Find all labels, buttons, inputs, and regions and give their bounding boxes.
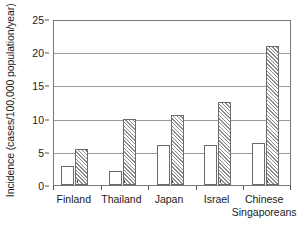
plot-area xyxy=(53,20,291,186)
bar-chart: Incidence (cases/100,000 population/year… xyxy=(0,0,297,241)
y-axis-tick-mark xyxy=(45,53,49,54)
y-axis-tick-label: 15 xyxy=(32,81,44,92)
x-axis-tick-label: Thailand xyxy=(101,193,141,206)
y-axis-tick-mark xyxy=(45,20,49,21)
x-axis-tick-marks xyxy=(53,186,291,191)
x-axis-tick-label-line: Israel xyxy=(204,193,230,205)
y-axis-tick-label: 25 xyxy=(32,15,44,26)
bar xyxy=(157,145,170,185)
y-axis-tick-label: 5 xyxy=(38,148,44,159)
x-axis-tick-label: Israel xyxy=(204,193,230,206)
y-axis-tick-label: 0 xyxy=(38,181,44,192)
x-axis-tick-labels: FinlandThailandJapanIsraelChineseSingapo… xyxy=(53,193,291,239)
bar xyxy=(204,145,217,186)
y-axis-title: Incidence (cases/100,000 population/year… xyxy=(0,0,20,200)
x-axis-tick-mark xyxy=(196,186,197,190)
x-axis-tick-mark xyxy=(290,186,291,190)
y-axis-tick-mark xyxy=(45,86,49,87)
x-axis-minor-tick-mark xyxy=(77,180,78,183)
y-axis-title-text: Incidence (cases/100,000 population/year… xyxy=(5,3,16,197)
x-axis-tick-label-line: Singaporeans xyxy=(232,206,297,219)
y-axis-tick-labels: 0510152025 xyxy=(20,20,49,186)
bar xyxy=(123,119,136,185)
x-axis-tick-mark xyxy=(243,186,244,190)
bars-layer xyxy=(54,21,290,185)
bar xyxy=(61,166,74,185)
x-axis-tick-label: Finland xyxy=(57,193,91,206)
bar xyxy=(218,102,231,185)
bar xyxy=(266,46,279,185)
x-axis-tick-label-line: Chinese xyxy=(245,193,284,205)
x-axis-tick-label: ChineseSingaporeans xyxy=(232,193,297,219)
x-axis-minor-tick-mark xyxy=(172,180,173,183)
x-axis-minor-tick-mark xyxy=(220,180,221,183)
x-axis-minor-tick-mark xyxy=(124,180,125,183)
bar xyxy=(171,115,184,185)
x-axis-tick-label-line: Thailand xyxy=(101,193,141,205)
bar xyxy=(109,171,122,185)
y-axis-tick-label: 10 xyxy=(32,114,44,125)
y-axis-tick-mark xyxy=(45,152,49,153)
bar xyxy=(252,143,265,185)
y-axis-tick-mark xyxy=(45,119,49,120)
x-axis-tick-mark xyxy=(101,186,102,190)
y-axis-tick-label: 20 xyxy=(32,48,44,59)
x-axis-tick-mark xyxy=(53,186,54,190)
x-axis-minor-tick-mark xyxy=(267,180,268,183)
x-axis-tick-label-line: Finland xyxy=(57,193,91,205)
x-axis-tick-label: Japan xyxy=(155,193,184,206)
x-axis-tick-label-line: Japan xyxy=(155,193,184,205)
y-axis-tick-mark xyxy=(45,186,49,187)
x-axis-tick-mark xyxy=(148,186,149,190)
